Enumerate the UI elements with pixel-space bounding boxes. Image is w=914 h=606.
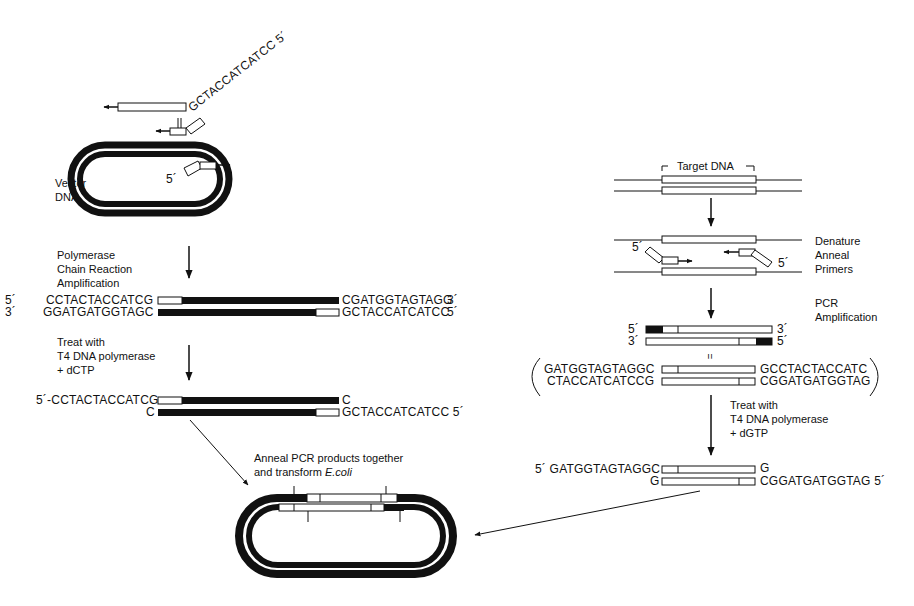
t4-product-right — [662, 466, 755, 485]
step-line: Amplification — [57, 276, 132, 290]
pcr-left-bottom-three: 3´ — [5, 306, 16, 319]
pcr-right-bottom-five: 5´ — [777, 335, 788, 348]
inner-primer-end-label: 5´ — [166, 172, 177, 186]
step-t4-label-left: Treat with T4 DNA polymerase + dCTP — [57, 335, 155, 377]
pcr-left-bottom-left-seq: GGATGATGGTAGC — [43, 306, 154, 319]
step-line: Amplification — [815, 310, 877, 324]
step-line: Polymerase — [57, 248, 132, 262]
t4-left-top-left-seq: 5´-CCTACTACCATCG — [36, 394, 159, 407]
expanded-bottom-left-seq: CTACCATCATCCG — [547, 375, 654, 388]
t4-product-left — [158, 397, 339, 416]
pcr-left-bottom-five: 5´ — [447, 306, 458, 319]
step-line: T4 DNA polymerase — [57, 349, 155, 363]
step-line: Primers — [815, 262, 860, 276]
step-line: Treat with — [730, 398, 828, 412]
step-line: Anneal — [815, 248, 860, 262]
step-pcr-label-right: PCR Amplification — [815, 296, 877, 324]
anneal-transform-label: Anneal PCR products together and transfo… — [254, 451, 403, 479]
anneal-line1: Anneal PCR products together — [254, 451, 403, 465]
anneal-line2: and transform E.coli — [254, 465, 403, 479]
step-line: Chain Reaction — [57, 262, 132, 276]
pcr-right-bottom-three: 3´ — [628, 335, 639, 348]
arrow-to-final-left — [190, 420, 248, 485]
step-pcr-label-left: Polymerase Chain Reaction Amplification — [57, 248, 132, 290]
vector-label-line2: DNA — [55, 190, 86, 204]
t4-right-top-left-seq: 5´ GATGGTAGTAGGC — [535, 463, 660, 476]
recombinant-plasmid — [239, 486, 453, 574]
pcr-product-right — [646, 326, 772, 345]
t4-right-bottom-right-seq: CGGATGATGGTAG 5´ — [760, 475, 885, 488]
t4-left-bottom-left-seq: C — [146, 406, 155, 419]
step-line: + dGTP — [730, 426, 828, 440]
pcr-product-left — [158, 297, 339, 316]
t4-left-bottom-right-seq: GCTACCATCATCC 5´ — [342, 406, 464, 419]
anneal-line2-prefix: and transform — [254, 466, 325, 478]
step-denature-label: Denature Anneal Primers — [815, 234, 860, 276]
vector-dna-plasmid — [71, 145, 230, 213]
vector-label-line1: Vector — [55, 176, 86, 190]
vector-label: Vector DNA — [55, 176, 86, 204]
step-line: PCR — [815, 296, 877, 310]
step-t4-label-right: Treat with T4 DNA polymerase + dGTP — [730, 398, 828, 440]
t4-right-bottom-left-seq: G — [650, 475, 660, 488]
equals-sign: = — [703, 353, 716, 359]
step-line: + dCTP — [57, 363, 155, 377]
step-line: T4 DNA polymerase — [730, 412, 828, 426]
step-line: Treat with — [57, 335, 155, 349]
target-dna-label: Target DNA — [674, 159, 737, 173]
right-primer-end: 5´ — [778, 256, 789, 270]
step-line: Denature — [815, 234, 860, 248]
organism-name: E.coli — [325, 466, 352, 478]
pcr-left-bottom-right-seq: GCTACCATCATCC — [342, 306, 449, 319]
left-primer-end: 5´ — [632, 240, 643, 254]
expanded-bottom-right-seq: CGGATGATGGTAG — [760, 375, 871, 388]
arrow-to-final-right — [475, 491, 700, 535]
